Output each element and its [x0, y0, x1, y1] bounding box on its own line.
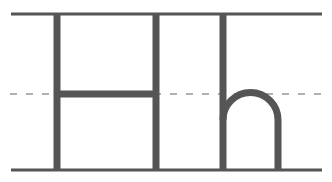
letter-lowercase-h	[223, 14, 278, 170]
letter-uppercase-h	[57, 14, 156, 170]
letter-diagram	[0, 0, 332, 182]
handwriting-guide: Handwriting guide: Hh	[0, 0, 332, 182]
